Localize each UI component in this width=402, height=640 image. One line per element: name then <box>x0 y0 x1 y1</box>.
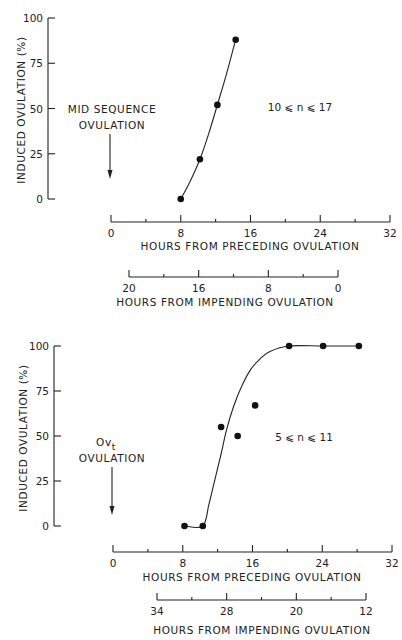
chart-2-xlabel: HOURS FROM PRECEDING OVULATION <box>143 571 362 583</box>
chart-2-x2-tick-label: 12 <box>359 605 372 617</box>
chart-2-data-point <box>218 424 225 431</box>
chart-1-annotation-line2: OVULATION <box>79 119 145 131</box>
chart-2: INDUCED OVULATION (%) HOURS FROM PRECEDI… <box>17 364 371 636</box>
chart-1-x2label: HOURS FROM IMPENDING OVULATION <box>116 296 334 308</box>
chart-2-y-tick-label: 75 <box>36 385 49 397</box>
chart-2-x2-tick-label: 20 <box>290 605 303 617</box>
chart-1-y-tick-label: 50 <box>30 103 43 115</box>
chart-1-annotation-line1: MID SEQUENCE <box>68 103 156 115</box>
chart-2-data-point <box>234 433 241 440</box>
chart-1-y-tick-label: 0 <box>36 193 43 205</box>
chart-1-data-point <box>232 36 239 43</box>
chart-1-x2-tick-label: 8 <box>265 282 272 294</box>
chart-1-data-point <box>177 196 184 203</box>
chart-2-x-tick-label: 32 <box>385 557 398 569</box>
chart-2-data-point <box>286 343 293 350</box>
chart-1-y-tick-label: 25 <box>30 148 43 160</box>
chart-1-x-tick-label: 16 <box>244 227 258 239</box>
chart-2-data-point <box>200 523 207 530</box>
chart-1-data-point <box>214 102 221 109</box>
chart-2-arrow-icon <box>110 467 115 515</box>
chart-1-x-tick-label: 32 <box>383 227 396 239</box>
chart-1-y-tick-label: 75 <box>30 57 43 69</box>
chart-2-data-point <box>181 523 188 530</box>
chart-1: INDUCED OVULATION (%) HOURS FROM PRECEDI… <box>15 36 359 308</box>
chart-2-x2-tick-label: 34 <box>150 605 164 617</box>
chart-1-x-tick-label: 24 <box>314 227 328 239</box>
chart-1-y-tick-label: 100 <box>23 12 43 24</box>
chart-2-ylabel: INDUCED OVULATION (%) <box>17 364 29 511</box>
chart-1-x2-tick-label: 16 <box>192 282 206 294</box>
chart-2-data-point <box>356 343 363 350</box>
chart-2-data-point <box>252 402 259 409</box>
chart-1-n-label: 10 ⩽ n ⩽ 17 <box>268 101 332 113</box>
chart-1-x-tick-label: 8 <box>177 227 184 239</box>
chart-2-y-tick-label: 0 <box>42 520 49 532</box>
chart-2-x-tick-label: 16 <box>246 557 260 569</box>
chart-2-x-tick-label: 24 <box>316 557 330 569</box>
chart-2-annotation-line1: Ovt <box>96 436 116 452</box>
chart-1-x2-tick-label: 20 <box>122 282 135 294</box>
chart-1-xlabel: HOURS FROM PRECEDING OVULATION <box>141 240 360 252</box>
chart-2-y-tick-label: 50 <box>36 430 49 442</box>
figure: INDUCED OVULATION (%) HOURS FROM PRECEDI… <box>0 0 402 640</box>
chart-2-annotation-line2: OVULATION <box>79 452 145 464</box>
chart-1-arrow-icon <box>108 134 113 179</box>
chart-2-x2-tick-label: 28 <box>220 605 233 617</box>
chart-1-data-point <box>197 156 204 163</box>
chart-2-y-tick-label: 100 <box>29 340 49 352</box>
chart-2-annotation-sub: t <box>112 442 116 452</box>
chart-2-n-label: 5 ⩽ n ⩽ 11 <box>275 431 333 443</box>
chart-2-x-tick-label: 8 <box>179 557 186 569</box>
chart-1-x-tick-label: 0 <box>108 227 115 239</box>
chart-2-y-tick-label: 25 <box>36 475 49 487</box>
chart-2-data-point <box>320 343 327 350</box>
chart-2-x2label: HOURS FROM IMPENDING OVULATION <box>153 624 371 636</box>
chart-2-x-tick-label: 0 <box>110 557 117 569</box>
chart-1-fit-curve <box>181 40 236 199</box>
chart-2-annotation-main: Ov <box>96 436 112 448</box>
chart-1-ylabel: INDUCED OVULATION (%) <box>15 36 27 183</box>
chart-1-x2-tick-label: 0 <box>335 282 342 294</box>
